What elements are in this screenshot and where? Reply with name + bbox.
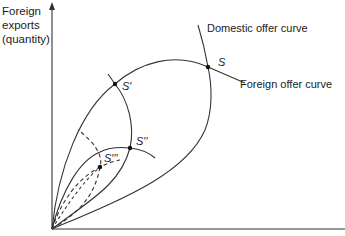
point-s-double-prime xyxy=(128,146,132,150)
point-s-triple-prime xyxy=(98,165,102,169)
y-label-line-2: exports xyxy=(2,18,50,32)
offer-curve-diagram xyxy=(0,0,345,236)
y-label-line-3: (quantity) xyxy=(2,32,50,46)
point-s-double-prime-label: S′′ xyxy=(136,135,147,147)
point-s-prime xyxy=(113,82,117,86)
dashed-foreign-curve xyxy=(52,160,120,229)
point-s-triple-prime-label: S′′′ xyxy=(104,152,118,164)
dashed-domestic-curve xyxy=(52,130,101,229)
foreign-offer-curve xyxy=(52,60,245,229)
domestic-offer-curve-2 xyxy=(52,74,132,229)
point-s-label: S xyxy=(218,56,225,68)
foreign-curve-label: Foreign offer curve xyxy=(240,78,332,90)
y-axis-label: Foreign exports (quantity) xyxy=(2,4,50,46)
y-label-line-1: Foreign xyxy=(2,4,50,18)
domestic-curve-label: Domestic offer curve xyxy=(207,22,308,34)
point-s xyxy=(206,65,210,69)
point-s-prime-label: S′ xyxy=(122,80,131,92)
